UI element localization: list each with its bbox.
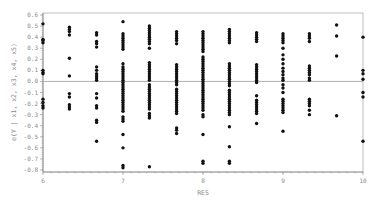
data-point (201, 162, 204, 165)
data-point (95, 65, 98, 68)
data-point (121, 20, 124, 23)
data-point (41, 106, 44, 109)
data-point (361, 140, 364, 143)
data-point (281, 83, 284, 86)
data-point (201, 109, 204, 112)
data-point (175, 112, 178, 115)
data-point (361, 69, 364, 72)
data-point (335, 23, 338, 26)
data-point (41, 22, 44, 25)
data-point (121, 62, 124, 65)
y-tick-label: 0.6 (27, 11, 38, 18)
data-point (121, 146, 124, 149)
data-point (41, 72, 44, 75)
y-tick-label: -0.8 (24, 166, 39, 173)
data-point (308, 104, 311, 107)
data-point (281, 111, 284, 114)
y-tick-label: -0.5 (24, 133, 39, 140)
data-point (281, 70, 284, 73)
y-tick-label: -0.2 (24, 100, 39, 107)
y-tick-label: -0.6 (24, 144, 39, 151)
data-point (255, 112, 258, 115)
data-point (95, 92, 98, 95)
y-tick-label: 0.5 (27, 22, 38, 29)
y-tick-label: -0.1 (24, 89, 39, 96)
data-point (281, 86, 284, 89)
data-point (41, 101, 44, 104)
data-point (361, 72, 364, 75)
data-point (68, 74, 71, 77)
y-axis-label: e(Y | x1, x2, x3, x4, x5) (10, 43, 18, 141)
data-point (281, 130, 284, 133)
data-point (255, 122, 258, 125)
data-point (228, 84, 231, 87)
data-point (361, 91, 364, 94)
data-points (41, 20, 364, 170)
data-point (121, 110, 124, 113)
data-point (308, 109, 311, 112)
data-point (68, 92, 71, 95)
data-point (361, 78, 364, 81)
data-point (95, 45, 98, 48)
data-point (148, 107, 151, 110)
data-point (308, 113, 311, 116)
data-point (68, 56, 71, 59)
data-point (121, 133, 124, 136)
data-point (281, 41, 284, 44)
data-point (121, 120, 124, 123)
data-point (175, 42, 178, 45)
data-point (148, 165, 151, 168)
x-axis: 678910 (41, 172, 367, 184)
data-point (121, 166, 124, 169)
data-point (175, 128, 178, 131)
data-point (148, 47, 151, 50)
data-point (68, 30, 71, 33)
data-point (281, 66, 284, 69)
data-point (281, 73, 284, 76)
data-point (95, 140, 98, 143)
data-point (361, 35, 364, 38)
data-point (281, 62, 284, 65)
data-point (68, 95, 71, 98)
data-point (41, 97, 44, 100)
data-point (95, 96, 98, 99)
data-point (201, 133, 204, 136)
data-point (175, 83, 178, 86)
data-point (201, 115, 204, 118)
x-tick-label: 8 (201, 177, 205, 184)
data-point (228, 145, 231, 148)
data-point (148, 79, 151, 82)
y-axis: 0.60.50.40.30.20.10.0-0.1-0.2-0.3-0.4-0.… (24, 11, 43, 173)
data-point (201, 50, 204, 53)
data-point (308, 73, 311, 76)
x-tick-label: 9 (281, 177, 285, 184)
data-point (95, 121, 98, 124)
data-point (41, 41, 44, 44)
data-point (175, 132, 178, 135)
data-point (68, 33, 71, 36)
data-point (95, 106, 98, 109)
data-point (335, 54, 338, 57)
data-point (68, 107, 71, 110)
data-point (255, 40, 258, 43)
y-tick-label: 0.1 (27, 66, 38, 73)
x-tick-label: 6 (41, 177, 45, 184)
y-tick-label: 0.3 (27, 44, 38, 51)
data-point (335, 114, 338, 117)
data-point (308, 79, 311, 82)
data-point (95, 42, 98, 45)
data-point (361, 95, 364, 98)
data-point (95, 69, 98, 72)
data-point (121, 48, 124, 51)
data-point (228, 162, 231, 165)
data-point (148, 42, 151, 45)
data-point (281, 58, 284, 61)
data-point (255, 94, 258, 97)
y-tick-label: -0.7 (24, 155, 39, 162)
y-tick-label: 0.0 (27, 77, 38, 84)
data-point (281, 91, 284, 94)
y-tick-label: 0.4 (27, 33, 38, 40)
data-point (335, 34, 338, 37)
data-point (95, 79, 98, 82)
data-point (308, 40, 311, 43)
